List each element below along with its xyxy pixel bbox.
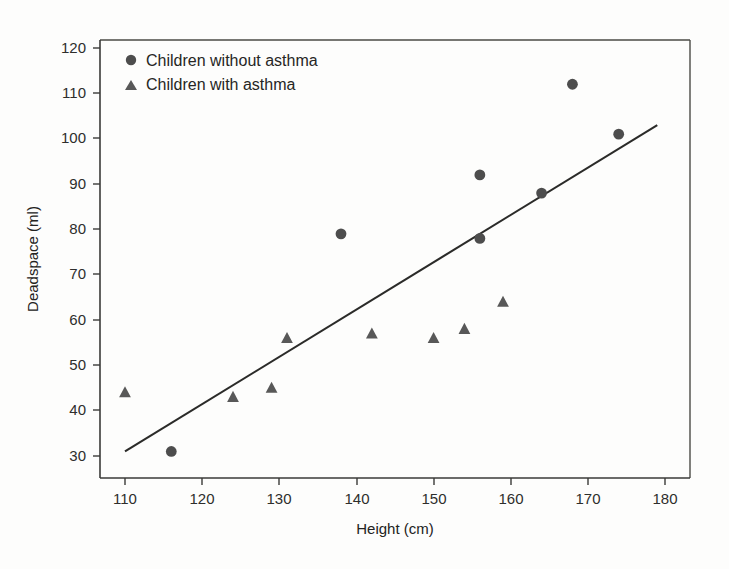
x-tick-label: 150	[421, 490, 446, 507]
data-point-circle	[613, 129, 624, 140]
x-tick-label: 180	[652, 490, 677, 507]
data-point-circle	[474, 233, 485, 244]
data-point-circle	[567, 79, 578, 90]
y-tick-label: 80	[69, 220, 86, 237]
y-tick-label: 60	[69, 311, 86, 328]
data-point-triangle	[366, 327, 378, 338]
x-tick-label: 120	[189, 490, 214, 507]
legend-label-without-asthma: Children without asthma	[146, 52, 318, 69]
data-point-circle	[474, 170, 485, 181]
y-tick-label: 120	[61, 39, 86, 56]
x-tick-label: 140	[344, 490, 369, 507]
y-tick-label: 50	[69, 356, 86, 373]
x-axis-tick-labels: 110 120 130 140 150 160 170 180	[113, 490, 677, 507]
legend-label-with-asthma: Children with asthma	[146, 76, 296, 93]
y-tick-label: 100	[61, 129, 86, 146]
series-with-asthma	[119, 296, 509, 402]
y-tick-label: 90	[69, 175, 86, 192]
data-markers-layer	[119, 79, 624, 457]
x-tick-label: 160	[498, 490, 523, 507]
scatter-plot-figure: 120 110 100 90 80 70 60 50 40 30 110 120	[0, 0, 729, 569]
data-point-circle	[336, 228, 347, 239]
y-tick-label: 70	[69, 265, 86, 282]
x-tick-label: 170	[575, 490, 600, 507]
data-point-circle	[536, 188, 547, 199]
data-point-triangle	[227, 391, 239, 402]
plot-canvas: 120 110 100 90 80 70 60 50 40 30 110 120	[0, 0, 729, 569]
x-tick-label: 130	[266, 490, 291, 507]
x-axis-title: Height (cm)	[356, 520, 434, 537]
y-tick-label: 110	[62, 84, 86, 101]
x-axis-ticks	[125, 478, 665, 485]
y-axis-ticks	[93, 48, 100, 456]
data-point-triangle	[428, 332, 440, 343]
regression-line	[125, 125, 657, 451]
legend-marker-triangle-icon	[125, 80, 137, 90]
data-point-circle	[166, 446, 177, 457]
data-point-triangle	[281, 332, 293, 343]
chart-legend: Children without asthma Children with as…	[125, 52, 318, 93]
data-point-triangle	[119, 386, 131, 397]
y-tick-label: 40	[69, 401, 86, 418]
data-point-triangle	[497, 296, 509, 307]
data-point-triangle	[459, 323, 471, 334]
x-tick-label: 110	[113, 490, 137, 507]
legend-marker-circle-icon	[126, 55, 136, 65]
y-axis-tick-labels: 120 110 100 90 80 70 60 50 40 30	[61, 39, 86, 464]
y-axis-title: Deadspace (ml)	[24, 206, 41, 312]
data-point-triangle	[266, 382, 278, 393]
y-tick-label: 30	[69, 447, 86, 464]
